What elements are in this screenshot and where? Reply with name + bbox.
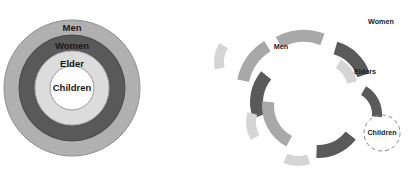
ring-label-women: Women [55,40,89,51]
ring-label-children: Children [53,82,92,93]
figure-canvas: MenWomenElderChildrenWomenMenEldersChild… [0,0,415,188]
ring-label-elder: Elder [60,58,84,69]
concentric-rings-group: MenWomenElderChildren [4,20,140,156]
arc-label-elders: Elders [354,67,376,76]
ring-label-men: Men [63,22,82,33]
arc-inner-lowleft[interactable] [262,101,292,146]
exploded-arcs-group: WomenMenEldersChildren [214,17,400,166]
arc-inner-right[interactable] [361,86,382,117]
arc-elders-bottom[interactable] [283,154,310,166]
arc-elders-farleft[interactable] [214,43,228,70]
arc-women-bottom[interactable] [316,132,355,158]
arc-label-men: Men [274,42,288,51]
diagram-svg: MenWomenElderChildrenWomenMenEldersChild… [0,0,415,188]
arc-label-children: Children [367,128,396,137]
arc-label-women: Women [368,17,394,26]
